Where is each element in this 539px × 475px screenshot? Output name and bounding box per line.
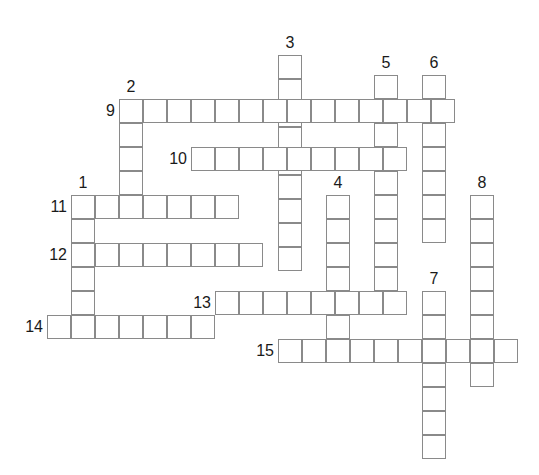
- grid-cell[interactable]: [407, 99, 431, 123]
- grid-cell[interactable]: [119, 123, 143, 147]
- grid-cell[interactable]: [278, 339, 302, 363]
- grid-cell[interactable]: [470, 339, 494, 363]
- grid-cell[interactable]: [95, 243, 119, 267]
- grid-cell[interactable]: [239, 243, 263, 267]
- grid-cell[interactable]: [119, 315, 143, 339]
- grid-cell[interactable]: [326, 243, 350, 267]
- grid-cell[interactable]: [470, 363, 494, 387]
- grid-cell[interactable]: [422, 387, 446, 411]
- grid-cell[interactable]: [422, 123, 446, 147]
- grid-cell[interactable]: [71, 267, 95, 291]
- grid-cell[interactable]: [383, 99, 407, 123]
- grid-cell[interactable]: [119, 195, 143, 219]
- grid-cell[interactable]: [422, 435, 446, 459]
- grid-cell[interactable]: [311, 147, 335, 171]
- grid-cell[interactable]: [326, 339, 350, 363]
- grid-cell[interactable]: [215, 195, 239, 219]
- grid-cell[interactable]: [470, 219, 494, 243]
- grid-cell[interactable]: [263, 147, 287, 171]
- grid-cell[interactable]: [326, 315, 350, 339]
- grid-cell[interactable]: [326, 219, 350, 243]
- grid-cell[interactable]: [278, 55, 302, 79]
- grid-cell[interactable]: [374, 195, 398, 219]
- grid-cell[interactable]: [263, 99, 287, 123]
- grid-cell[interactable]: [374, 123, 398, 147]
- grid-cell[interactable]: [383, 291, 407, 315]
- grid-cell[interactable]: [374, 243, 398, 267]
- grid-cell[interactable]: [215, 291, 239, 315]
- grid-cell[interactable]: [167, 315, 191, 339]
- grid-cell[interactable]: [191, 147, 215, 171]
- grid-cell[interactable]: [95, 195, 119, 219]
- grid-cell[interactable]: [311, 99, 335, 123]
- grid-cell[interactable]: [350, 339, 374, 363]
- grid-cell[interactable]: [422, 411, 446, 435]
- grid-cell[interactable]: [191, 195, 215, 219]
- grid-cell[interactable]: [422, 147, 446, 171]
- grid-cell[interactable]: [335, 291, 359, 315]
- grid-cell[interactable]: [215, 243, 239, 267]
- grid-cell[interactable]: [239, 291, 263, 315]
- grid-cell[interactable]: [374, 219, 398, 243]
- grid-cell[interactable]: [278, 247, 302, 271]
- grid-cell[interactable]: [422, 171, 446, 195]
- grid-cell[interactable]: [167, 195, 191, 219]
- grid-cell[interactable]: [143, 99, 167, 123]
- grid-cell[interactable]: [335, 99, 359, 123]
- grid-cell[interactable]: [71, 291, 95, 315]
- grid-cell[interactable]: [470, 315, 494, 339]
- grid-cell[interactable]: [191, 243, 215, 267]
- grid-cell[interactable]: [422, 339, 446, 363]
- grid-cell[interactable]: [422, 195, 446, 219]
- grid-cell[interactable]: [359, 99, 383, 123]
- grid-cell[interactable]: [278, 175, 302, 199]
- grid-cell[interactable]: [311, 291, 335, 315]
- grid-cell[interactable]: [494, 339, 518, 363]
- grid-cell[interactable]: [302, 339, 326, 363]
- grid-cell[interactable]: [95, 315, 119, 339]
- grid-cell[interactable]: [47, 315, 71, 339]
- grid-cell[interactable]: [278, 199, 302, 223]
- grid-cell[interactable]: [470, 267, 494, 291]
- grid-cell[interactable]: [287, 147, 311, 171]
- grid-cell[interactable]: [278, 223, 302, 247]
- grid-cell[interactable]: [215, 147, 239, 171]
- grid-cell[interactable]: [422, 315, 446, 339]
- grid-cell[interactable]: [71, 219, 95, 243]
- grid-cell[interactable]: [374, 75, 398, 99]
- grid-cell[interactable]: [287, 291, 311, 315]
- grid-cell[interactable]: [191, 99, 215, 123]
- grid-cell[interactable]: [422, 75, 446, 99]
- grid-cell[interactable]: [431, 99, 455, 123]
- grid-cell[interactable]: [71, 315, 95, 339]
- grid-cell[interactable]: [191, 315, 215, 339]
- grid-cell[interactable]: [119, 171, 143, 195]
- grid-cell[interactable]: [359, 291, 383, 315]
- grid-cell[interactable]: [143, 195, 167, 219]
- grid-cell[interactable]: [71, 243, 95, 267]
- grid-cell[interactable]: [71, 195, 95, 219]
- grid-cell[interactable]: [263, 291, 287, 315]
- grid-cell[interactable]: [470, 291, 494, 315]
- grid-cell[interactable]: [422, 291, 446, 315]
- grid-cell[interactable]: [374, 267, 398, 291]
- grid-cell[interactable]: [119, 99, 143, 123]
- grid-cell[interactable]: [398, 339, 422, 363]
- grid-cell[interactable]: [326, 267, 350, 291]
- grid-cell[interactable]: [119, 243, 143, 267]
- grid-cell[interactable]: [374, 339, 398, 363]
- grid-cell[interactable]: [239, 147, 263, 171]
- grid-cell[interactable]: [287, 99, 311, 123]
- grid-cell[interactable]: [167, 99, 191, 123]
- grid-cell[interactable]: [167, 243, 191, 267]
- grid-cell[interactable]: [422, 219, 446, 243]
- grid-cell[interactable]: [446, 339, 470, 363]
- grid-cell[interactable]: [374, 171, 398, 195]
- grid-cell[interactable]: [239, 99, 263, 123]
- grid-cell[interactable]: [470, 243, 494, 267]
- grid-cell[interactable]: [119, 147, 143, 171]
- grid-cell[interactable]: [326, 195, 350, 219]
- grid-cell[interactable]: [470, 195, 494, 219]
- grid-cell[interactable]: [215, 99, 239, 123]
- grid-cell[interactable]: [143, 243, 167, 267]
